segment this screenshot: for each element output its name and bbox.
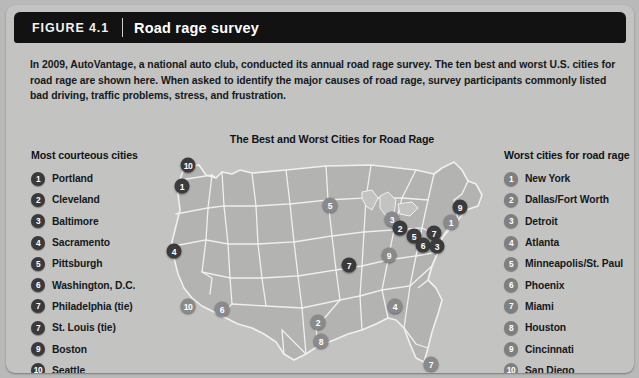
map-marker-phoenix: 6 [215, 302, 230, 317]
figure-title: Road rage survey [134, 20, 259, 36]
courteous-city-name: Cleveland [52, 194, 100, 205]
worst-city-name: Detroit [525, 216, 557, 227]
list-item: 8Houston [504, 317, 634, 338]
worst-city-name: San Diego [525, 365, 574, 373]
list-item: 5Pittsburgh [31, 253, 181, 274]
worst-rank-badge: 10 [504, 363, 518, 373]
list-item: 4Atlanta [504, 232, 634, 253]
worst-rank-badge: 8 [504, 321, 518, 335]
map-marker-houston: 8 [314, 334, 329, 349]
courteous-city-name: Seattle [52, 365, 85, 373]
worst-rank-badge: 3 [504, 214, 518, 228]
worst-rank-badge: 7 [504, 299, 518, 313]
list-item: 7Philadelphia (tie) [31, 296, 181, 317]
worst-rank-badge: 4 [504, 236, 518, 250]
figure-header-bar: FIGURE 4.1 Road rage survey [14, 12, 626, 43]
intro-paragraph: In 2009, AutoVantage, a national auto cl… [30, 57, 620, 104]
map-marker-new-york: 1 [444, 215, 459, 230]
courteous-city-name: Philadelphia (tie) [52, 301, 133, 312]
map-marker-minneapolis-st-paul: 5 [323, 198, 338, 213]
map-marker-atlanta: 4 [388, 299, 403, 314]
figure-panel: FIGURE 4.1 Road rage survey In 2009, Aut… [6, 5, 634, 373]
list-item: 1Portland [31, 168, 181, 189]
list-item: 3Detroit [504, 211, 634, 232]
list-item: 2Cleveland [31, 189, 181, 210]
map-marker-miami: 7 [424, 357, 439, 372]
worst-rank-badge: 2 [504, 193, 518, 207]
worst-rank-badge: 6 [504, 278, 518, 292]
map-marker-cincinnati: 9 [382, 248, 397, 263]
most-courteous-heading: Most courteous cities [31, 149, 181, 161]
list-item: 10Seattle [31, 360, 181, 373]
courteous-city-name: Sacramento [52, 237, 110, 248]
map-marker-sacramento: 4 [167, 244, 182, 259]
map-marker-san-diego: 10 [181, 299, 196, 314]
worst-city-name: Houston [525, 322, 566, 333]
map-marker-cleveland: 2 [393, 221, 408, 236]
list-item: 3Baltimore [31, 211, 181, 232]
worst-rank-badge: 5 [504, 257, 518, 271]
courteous-rank-badge: 4 [31, 236, 45, 250]
map-marker-dallas-fort-worth: 2 [311, 315, 326, 330]
courteous-city-name: Washington, D.C. [52, 280, 135, 291]
worst-city-name: Miami [525, 301, 554, 312]
list-item: 9Cincinnati [504, 338, 634, 359]
courteous-rank-badge: 7 [31, 321, 45, 335]
courteous-rank-badge: 10 [31, 363, 45, 373]
worst-cities-list: 1New York2Dallas/Fort Worth3Detroit4Atla… [504, 168, 634, 373]
courteous-rank-badge: 1 [31, 172, 45, 186]
figure-number-label: FIGURE 4.1 [32, 21, 109, 35]
map-marker-washington-d-c: 6 [416, 238, 431, 253]
courteous-city-name: St. Louis (tie) [52, 322, 116, 333]
most-courteous-column: Most courteous cities 1Portland2Clevelan… [31, 149, 181, 373]
map-title: The Best and Worst Cities for Road Rage [166, 133, 498, 145]
worst-city-name: New York [525, 173, 570, 184]
list-item: 5Minneapolis/St. Paul [504, 253, 634, 274]
courteous-city-name: Portland [52, 173, 93, 184]
worst-rank-badge: 9 [504, 342, 518, 356]
map-marker-portland: 1 [175, 179, 190, 194]
courteous-rank-badge: 2 [31, 193, 45, 207]
worst-city-name: Minneapolis/St. Paul [525, 258, 623, 269]
list-item: 1New York [504, 168, 634, 189]
worst-cities-column: Worst cities for road rage 1New York2Dal… [504, 149, 634, 373]
list-item: 10San Diego [504, 360, 634, 373]
map-marker-st-louis: 7 [342, 258, 357, 273]
map-marker-boston: 9 [453, 200, 468, 215]
map-marker-seattle: 10 [181, 158, 196, 173]
map-marker-baltimore: 3 [430, 239, 445, 254]
list-item: 2Dallas/Fort Worth [504, 189, 634, 210]
us-map-container: The Best and Worst Cities for Road Rage [166, 133, 498, 373]
us-map-graphic [166, 148, 498, 373]
courteous-rank-badge: 5 [31, 257, 45, 271]
header-divider [122, 18, 123, 37]
courteous-city-name: Pittsburgh [52, 258, 102, 269]
worst-city-name: Phoenix [525, 280, 564, 291]
courteous-rank-badge: 7 [31, 299, 45, 313]
worst-rank-badge: 1 [504, 172, 518, 186]
worst-city-name: Atlanta [525, 237, 559, 248]
list-item: 6Washington, D.C. [31, 274, 181, 295]
list-item: 7Miami [504, 296, 634, 317]
worst-city-name: Dallas/Fort Worth [525, 194, 609, 205]
courteous-rank-badge: 6 [31, 278, 45, 292]
courteous-city-name: Baltimore [52, 216, 99, 227]
most-courteous-list: 1Portland2Cleveland3Baltimore4Sacramento… [31, 168, 181, 373]
list-item: 4Sacramento [31, 232, 181, 253]
list-item: 9Boston [31, 338, 181, 359]
courteous-city-name: Boston [52, 344, 87, 355]
worst-city-name: Cincinnati [525, 344, 574, 355]
courteous-rank-badge: 3 [31, 214, 45, 228]
worst-cities-heading: Worst cities for road rage [504, 149, 634, 161]
list-item: 7St. Louis (tie) [31, 317, 181, 338]
courteous-rank-badge: 9 [31, 342, 45, 356]
list-item: 6Phoenix [504, 274, 634, 295]
